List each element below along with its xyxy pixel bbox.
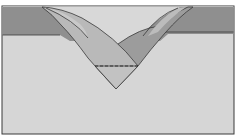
folding-diagram xyxy=(0,0,236,137)
diagram-canvas xyxy=(0,0,236,137)
